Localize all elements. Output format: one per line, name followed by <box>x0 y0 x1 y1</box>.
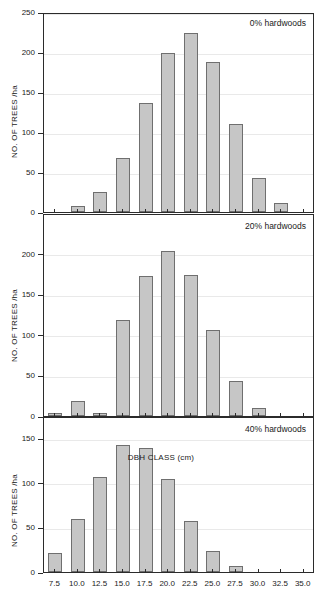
plot-area-0 <box>43 13 314 213</box>
bar <box>184 521 198 572</box>
bar <box>139 276 153 416</box>
x-axis-tick <box>167 209 168 213</box>
y-axis-tick <box>38 335 43 336</box>
bar <box>161 53 175 212</box>
x-axis-tick <box>54 569 55 573</box>
y-axis-tick-label: 150 <box>9 291 35 299</box>
y-axis-tick-label: 150 <box>9 89 35 97</box>
x-axis-tick <box>77 569 78 573</box>
bar <box>229 381 243 416</box>
plot-area-1 <box>43 214 314 417</box>
bar <box>93 413 107 416</box>
x-axis-tick-label: 35.0 <box>288 579 318 588</box>
y-axis-tick <box>38 53 43 54</box>
bars-layer <box>44 215 313 416</box>
y-axis-tick-label: 100 <box>9 332 35 340</box>
plot-area-2 <box>43 417 314 573</box>
y-axis-tick <box>38 93 43 94</box>
x-axis-tick <box>235 569 236 573</box>
y-axis-tick <box>38 573 43 574</box>
x-axis-tick <box>122 569 123 573</box>
x-axis-tick <box>235 209 236 213</box>
y-axis-tick <box>38 13 43 14</box>
x-axis-tick <box>258 209 259 213</box>
bar <box>116 445 130 572</box>
bar <box>116 158 130 212</box>
bar <box>184 33 198 212</box>
panel-title-1: 20% hardwoods <box>245 221 306 231</box>
y-axis-tick-label: 200 <box>9 49 35 57</box>
x-axis-title: DBH CLASS (cm) <box>0 453 322 462</box>
y-axis-tick <box>38 376 43 377</box>
x-axis-tick <box>258 569 259 573</box>
y-axis-title-1: NO. OF TREES /ha <box>10 289 19 362</box>
x-axis-tick <box>303 209 304 213</box>
x-axis-tick <box>190 569 191 573</box>
x-axis-tick <box>167 569 168 573</box>
y-axis-tick-label: 200 <box>9 251 35 259</box>
bar <box>206 330 220 416</box>
bar <box>252 408 266 416</box>
x-axis-tick <box>280 209 281 213</box>
y-axis-tick <box>38 254 43 255</box>
x-axis-tick <box>145 209 146 213</box>
x-axis-tick <box>212 569 213 573</box>
y-axis-tick-label: 50 <box>9 169 35 177</box>
y-axis-tick-label: 50 <box>9 372 35 380</box>
x-axis-tick <box>54 209 55 213</box>
x-axis-tick <box>99 209 100 213</box>
x-axis-tick <box>99 569 100 573</box>
y-axis-tick-label: 100 <box>9 480 35 488</box>
bars-layer <box>44 418 313 572</box>
panel-title-2: 40% hardwoods <box>245 424 306 434</box>
bar <box>161 251 175 416</box>
x-axis-tick <box>77 209 78 213</box>
panel-0-percent-hardwoods: 0% hardwoods NO. OF TREES /ha 0501001502… <box>0 0 322 214</box>
bar <box>139 448 153 572</box>
bars-layer <box>44 14 313 212</box>
x-axis-tick <box>212 209 213 213</box>
y-axis-tick <box>38 439 43 440</box>
bar <box>93 192 107 212</box>
bar <box>252 178 266 212</box>
panel-20-percent-hardwoods: 20% hardwoods NO. OF TREES /ha 050100150… <box>0 214 322 417</box>
bar <box>116 320 130 416</box>
y-axis-tick-label: 250 <box>9 9 35 17</box>
bar <box>229 124 243 212</box>
y-axis-tick-label: 100 <box>9 129 35 137</box>
x-axis-tick <box>145 569 146 573</box>
bar <box>206 62 220 212</box>
y-axis-tick <box>38 295 43 296</box>
bar <box>161 479 175 572</box>
dbh-class-histogram-figure: 0% hardwoods NO. OF TREES /ha 0501001502… <box>0 0 322 608</box>
y-axis-tick <box>38 483 43 484</box>
y-axis-tick <box>38 133 43 134</box>
panel-40-percent-hardwoods: 40% hardwoods NO. OF TREES /ha DBH CLASS… <box>0 417 322 608</box>
bar <box>71 519 85 572</box>
bar <box>229 566 243 572</box>
y-axis-tick-label: 0 <box>9 569 35 577</box>
y-axis-tick-label: 150 <box>9 435 35 443</box>
x-axis-tick <box>122 209 123 213</box>
bar <box>48 413 62 416</box>
bar <box>48 553 62 572</box>
x-axis-tick <box>280 569 281 573</box>
y-axis-tick-label: 50 <box>9 524 35 532</box>
bar <box>93 477 107 572</box>
y-axis-tick <box>38 528 43 529</box>
x-axis-tick <box>190 209 191 213</box>
y-axis-tick <box>38 173 43 174</box>
bar <box>184 275 198 416</box>
x-axis-tick <box>303 569 304 573</box>
bar <box>139 103 153 212</box>
panel-title-0: 0% hardwoods <box>250 18 306 28</box>
